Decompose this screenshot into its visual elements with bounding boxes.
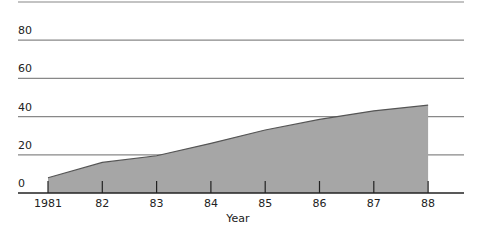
x-tick-label: 88 [421,197,435,210]
y-tick-label: 20 [18,139,32,152]
x-tick-label: 82 [95,197,109,210]
y-tick-labels: 020406080 [18,24,32,190]
x-tick-label: 87 [367,197,381,210]
y-tick-label: 40 [18,101,32,114]
area-fill [48,105,428,193]
y-tick-label: 0 [18,177,25,190]
chart-svg: 020406080 198182838485868788 Year [0,0,477,230]
x-tick-label: 85 [258,197,272,210]
x-tick-label: 83 [150,197,164,210]
x-tick-label: 1981 [34,197,62,210]
x-tick-label: 86 [313,197,327,210]
x-tick-labels: 198182838485868788 [34,197,435,210]
x-axis-title: Year [225,212,250,225]
y-tick-label: 60 [18,62,32,75]
y-tick-label: 80 [18,24,32,37]
area-chart: 020406080 198182838485868788 Year [0,0,477,230]
x-tick-label: 84 [204,197,218,210]
area-series [48,105,428,193]
